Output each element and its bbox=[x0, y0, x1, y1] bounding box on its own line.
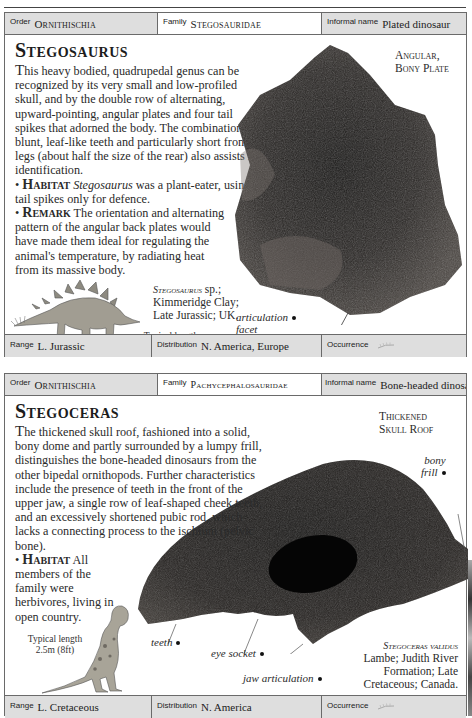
annotation-text: teeth bbox=[151, 636, 172, 648]
bony-plate-fossil-image bbox=[230, 35, 468, 325]
distribution-label: Distribution bbox=[157, 340, 197, 349]
specimen-age: Cretaceous; Canada. bbox=[323, 678, 458, 691]
card-header: Order Ornithischia Family Pachycephalosa… bbox=[5, 374, 466, 396]
pointer-dot-icon bbox=[292, 316, 296, 320]
species-description: The thickened skull roof, fashioned into… bbox=[15, 424, 277, 624]
family-cell: Family Pachycephalosauridae bbox=[157, 374, 321, 395]
range-cell: Range L. Cretaceous bbox=[5, 696, 151, 718]
specimen-name-suffix: sp.; bbox=[202, 283, 221, 295]
annotation-text-2: frill bbox=[421, 466, 438, 478]
typical-length-label: Typical length bbox=[20, 634, 90, 645]
typical-length: Typical length 2.5m (8ft) bbox=[20, 634, 90, 656]
occurrence-label: Occurrence bbox=[327, 340, 368, 349]
caption-line-2: Bony Plate bbox=[395, 62, 449, 75]
family-cell: Family Stegosauridae bbox=[157, 13, 321, 34]
pointer-dot-icon bbox=[260, 652, 264, 656]
family-label: Family bbox=[163, 17, 187, 26]
range-label: Range bbox=[10, 701, 34, 710]
order-cell: Order Ornithischia bbox=[5, 374, 157, 395]
description-text: he thickened skull roof, fashioned into … bbox=[15, 425, 262, 553]
fern-icon bbox=[377, 342, 395, 350]
informal-name-value: Bone-headed dinosaur bbox=[380, 379, 466, 391]
order-value: Ornithischia bbox=[34, 18, 95, 30]
species-card-stegoceras: Order Ornithischia Family Pachycephalosa… bbox=[4, 373, 467, 716]
annotation-text: articulation bbox=[236, 311, 288, 323]
specimen-formation: Formation; Late bbox=[323, 665, 458, 678]
family-value: Pachycephalosauridae bbox=[191, 379, 288, 390]
range-label: Range bbox=[10, 340, 34, 349]
caption-line-1: Angular, bbox=[395, 49, 449, 62]
annotation-text: bony bbox=[424, 454, 445, 466]
order-value: Ornithischia bbox=[34, 379, 95, 391]
occurrence-cell: Occurrence bbox=[321, 696, 466, 718]
description-text: his heavy bodied, quadrupedal genus can … bbox=[15, 64, 257, 177]
specimen-locality-block: Lambe; Judith River Formation; Late Cret… bbox=[323, 652, 458, 691]
order-cell: Order Ornithischia bbox=[5, 13, 157, 34]
annotation-articulation-facet: articulation facet bbox=[236, 311, 296, 335]
caption-line-1: Thickened bbox=[379, 410, 433, 423]
specimen-locality: Lambe; Judith River bbox=[323, 652, 458, 665]
drop-cap: T bbox=[15, 423, 24, 439]
species-title: Stegosaurus bbox=[15, 39, 128, 62]
specimen-part-caption: Angular, Bony Plate bbox=[395, 49, 449, 74]
typical-length-value: 2.5m (8ft) bbox=[20, 645, 90, 656]
page-top-rule bbox=[4, 7, 466, 8]
pointer-dot-icon bbox=[176, 641, 180, 645]
species-title: Stegoceras bbox=[15, 400, 119, 423]
habitat-genus: Stegosaurus bbox=[73, 178, 133, 192]
distribution-value: N. America bbox=[201, 701, 252, 713]
drop-cap: T bbox=[15, 62, 24, 78]
specimen-age: Late Jurassic; UK. bbox=[153, 309, 239, 322]
distribution-cell: Distribution N. America bbox=[151, 696, 321, 718]
family-label: Family bbox=[163, 378, 187, 387]
annotation-text: eye socket bbox=[211, 647, 256, 659]
specimen-info: Stegoceras validus bbox=[353, 639, 458, 652]
informal-name-label: Informal name bbox=[325, 378, 376, 387]
informal-name-cell: Informal name Bone-headed dinosaur bbox=[321, 374, 466, 395]
informal-name-cell: Informal name Plated dinosaur bbox=[321, 13, 466, 34]
pointer-dot-icon bbox=[318, 677, 322, 681]
distribution-cell: Distribution N. America, Europe bbox=[151, 335, 321, 357]
range-value: L. Cretaceous bbox=[38, 701, 99, 713]
distribution-label: Distribution bbox=[157, 701, 197, 710]
fern-icon bbox=[377, 703, 395, 711]
distribution-value: N. America, Europe bbox=[201, 340, 289, 352]
species-description: This heavy bodied, quadrupedal genus can… bbox=[15, 63, 265, 277]
specimen-name: Stegosaurus bbox=[153, 284, 202, 295]
annotation-teeth: teeth bbox=[151, 636, 180, 648]
card-header: Order Ornithischia Family Stegosauridae … bbox=[5, 13, 466, 35]
occurrence-label: Occurrence bbox=[327, 701, 368, 710]
annotation-eye-socket: eye socket bbox=[211, 647, 264, 659]
order-label: Order bbox=[10, 17, 30, 26]
specimen-locality: Kimmeridge Clay; bbox=[153, 296, 239, 309]
caption-line-2: Skull Roof bbox=[379, 423, 433, 436]
page-edge-strip bbox=[468, 560, 472, 716]
species-card-stegosaurus: Order Ornithischia Family Stegosauridae … bbox=[4, 12, 467, 357]
family-value: Stegosauridae bbox=[191, 18, 262, 30]
informal-name-value: Plated dinosaur bbox=[382, 18, 450, 30]
range-value: L. Jurassic bbox=[38, 340, 85, 352]
specimen-name: Stegoceras validus bbox=[353, 639, 458, 652]
informal-name-label: Informal name bbox=[327, 17, 378, 26]
habitat-label: Habitat bbox=[22, 552, 70, 567]
habitat-label: Habitat bbox=[22, 177, 70, 192]
order-label: Order bbox=[10, 378, 30, 387]
remark-label: Remark bbox=[22, 205, 70, 220]
specimen-info: Stegosaurus sp.; Kimmeridge Clay; Late J… bbox=[153, 283, 239, 322]
pointer-dot-icon bbox=[442, 471, 446, 475]
annotation-bony-frill: bony frill bbox=[421, 454, 446, 478]
annotation-jaw-articulation: jaw articulation bbox=[243, 672, 322, 684]
occurrence-cell: Occurrence bbox=[321, 335, 466, 357]
card-footer: Range L. Cretaceous Distribution N. Amer… bbox=[5, 695, 466, 718]
card-footer: Range L. Jurassic Distribution N. Americ… bbox=[5, 334, 466, 357]
specimen-part-caption: Thickened Skull Roof bbox=[379, 410, 433, 435]
annotation-text: jaw articulation bbox=[243, 672, 314, 684]
range-cell: Range L. Jurassic bbox=[5, 335, 151, 357]
